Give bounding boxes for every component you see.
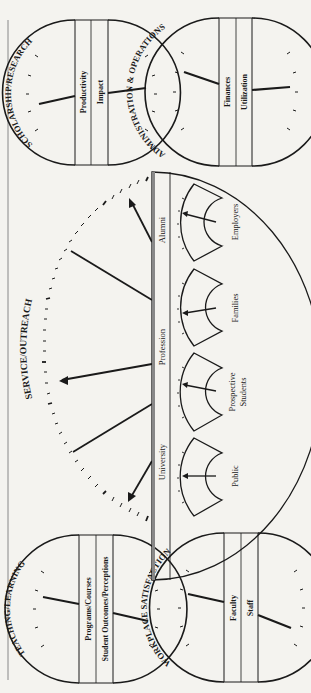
arrow xyxy=(131,461,152,497)
pointer-icon xyxy=(182,473,188,479)
header-label-profession: Profession xyxy=(157,328,167,365)
mini-gauge-families xyxy=(177,269,222,346)
needle xyxy=(43,597,79,604)
band-label: Finances xyxy=(223,77,232,107)
outer-tick-arc xyxy=(42,177,148,521)
needle xyxy=(188,594,224,602)
mini-label-families: Families xyxy=(231,294,240,323)
mini-gauge-public xyxy=(177,438,222,516)
needle xyxy=(184,72,219,84)
needle xyxy=(39,96,75,104)
header-label-university: University xyxy=(157,443,167,480)
needle xyxy=(71,251,152,300)
pointer-icon xyxy=(182,382,188,388)
dashboard-diagram: Productivity Impact SCHOLARSHIP/RESEARCH… xyxy=(0,0,311,693)
service-outreach-panel: Alumni Profession University xyxy=(18,172,311,580)
needle xyxy=(252,87,290,90)
mini-gauge-employers xyxy=(177,184,222,261)
mini-label-employers: Employers xyxy=(231,204,240,240)
service-outreach-title: SERVICE/OUTREACH xyxy=(18,297,34,400)
band-label: Faculty xyxy=(229,595,238,621)
arrow xyxy=(133,205,152,242)
gauge-administration-operations: Finances Utilization ADMINISTRATION & OP… xyxy=(124,16,311,166)
needle xyxy=(258,615,291,628)
arrow xyxy=(62,364,152,380)
mini-label-public: Public xyxy=(231,465,240,487)
arrowhead-icon xyxy=(59,376,68,385)
mini-label-prospective: Prospective xyxy=(228,372,237,411)
band-label: Utilization xyxy=(240,73,249,110)
mini-label-students: Students xyxy=(239,378,248,407)
pointer-icon xyxy=(182,211,188,217)
gauge-title: WORKPLACE SATISFACTION xyxy=(139,546,173,669)
gauge-workplace-satisfaction: Faculty Staff WORKPLACE SATISFACTION xyxy=(139,533,311,682)
band-label: Staff xyxy=(246,599,255,616)
arrowhead-icon xyxy=(129,198,136,208)
band-label: Programs/Courses xyxy=(84,577,93,640)
band-label: Productivity xyxy=(79,71,88,114)
band-label: Student Outcomes/Perceptions xyxy=(101,557,110,662)
band-label: Impact xyxy=(96,79,105,104)
pointer-icon xyxy=(182,310,188,316)
mini-gauge-prospective-students xyxy=(177,353,222,431)
needle xyxy=(73,404,152,452)
gauge-title: TEACHING/LEARNING xyxy=(2,558,27,658)
header-label-alumni: Alumni xyxy=(157,216,167,243)
